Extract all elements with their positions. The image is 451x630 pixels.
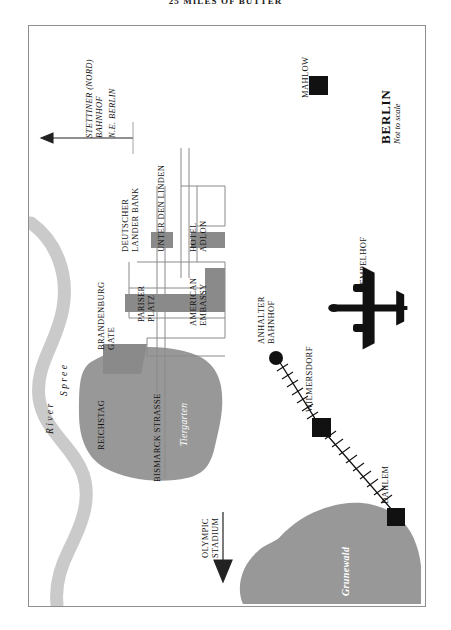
label-anhalter-bahnhof-line2: BAHNHOF [267, 296, 277, 344]
label-hotel-adlon-line2: ADLON [199, 221, 209, 253]
label-american-embassy-line2: EMBASSY [199, 278, 209, 326]
page-running-head: 25 MILES OF BUTTER [0, 0, 451, 6]
label-tempelhof: TEMPELHOF [359, 237, 368, 290]
map-subtitle: Not to scale [393, 103, 402, 144]
label-olympic-stadium: OLYMPIC STADIUM [201, 518, 220, 559]
label-unter-den-linden: UNTER DEN LINDEN [157, 165, 166, 252]
label-mahlow: MAHLOW [301, 57, 310, 98]
map-title: BERLIN [379, 89, 393, 144]
label-stettiner-bahnhof: STETTINER (NORD) BAHNHOF [85, 59, 104, 138]
label-american-embassy: AMERICAN EMBASSY [189, 278, 208, 326]
label-olympic-stadium-line2: STADIUM [211, 518, 221, 559]
label-grunewald: Grunewald [341, 547, 352, 596]
label-ne-berlin: N.E. BERLIN [108, 88, 117, 138]
label-river: River [45, 401, 55, 434]
label-reichstag: REICHSTAG [97, 400, 106, 450]
label-brandenburg-gate-line2: GATE [107, 281, 117, 350]
label-deutscher-bank-line2: LANDER BANK [131, 187, 141, 252]
label-hotel-adlon: HOTEL ADLON [189, 221, 208, 253]
label-wilmersdorf: WILMERSDORF [305, 346, 314, 412]
label-dahlem: DAHLEM [381, 466, 390, 504]
label-tiergarten: Tiergarten [179, 403, 189, 446]
label-stettiner-line2: BAHNHOF [95, 59, 105, 138]
label-bismarck-strasse: BISMARCK STRASSE [153, 394, 162, 483]
label-pariser-platz: PARISER PLATZ [137, 285, 156, 322]
berlin-map: STETTINER (NORD) BAHNHOF N.E. BERLIN DEU… [28, 25, 426, 607]
label-deutscher-lander-bank: DEUTSCHER LANDER BANK [121, 187, 140, 252]
map-label-layer: STETTINER (NORD) BAHNHOF N.E. BERLIN DEU… [29, 26, 425, 606]
label-spree: Spree [59, 363, 69, 396]
label-pariser-platz-line2: PLATZ [147, 285, 157, 322]
label-anhalter-bahnhof: ANHALTER BAHNHOF [257, 296, 276, 344]
label-brandenburg-gate: BRANDENBURG GATE [97, 281, 116, 350]
